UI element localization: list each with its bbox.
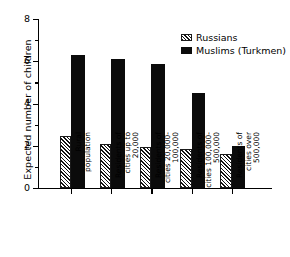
y-tick: 6 (33, 61, 38, 62)
x-category-label: Residents of cities 20,000- 100,000 (155, 132, 181, 196)
y-tick-label: 4 (24, 97, 30, 109)
y-tick-minor (35, 40, 38, 41)
x-category-label: Residents of cities up to 20,000 (115, 132, 141, 196)
x-tick (232, 189, 233, 194)
chart-legend: Russians Muslims (Turkmen) (181, 31, 286, 57)
bar-chart: Expected number of children 02468 Russia… (0, 0, 290, 257)
x-tick (192, 189, 193, 194)
y-tick: 4 (33, 104, 38, 105)
y-tick-label: 6 (24, 55, 30, 67)
legend-label: Russians (196, 32, 238, 43)
x-category-label: Residents of cities over 500,000 (236, 132, 262, 196)
y-axis-title: Expected number of children (22, 25, 33, 195)
y-tick-label: 0 (24, 182, 30, 194)
x-tick (71, 189, 72, 194)
bar-russians (140, 147, 152, 188)
legend-item-muslims: Muslims (Turkmen) (181, 44, 286, 56)
x-tick (111, 189, 112, 194)
y-tick: 0 (33, 188, 38, 189)
x-tick (151, 189, 152, 194)
y-tick-label: 8 (24, 13, 30, 25)
bar-russians (100, 144, 112, 188)
legend-label: Muslims (Turkmen) (196, 45, 286, 56)
y-tick-minor (35, 167, 38, 168)
y-tick-label: 2 (24, 139, 30, 151)
y-tick: 8 (33, 19, 38, 20)
y-tick-minor (35, 125, 38, 126)
legend-swatch-hatched-icon (181, 34, 192, 41)
y-tick: 2 (33, 146, 38, 147)
legend-swatch-solid-icon (181, 47, 192, 54)
legend-item-russians: Russians (181, 31, 286, 43)
bar-russians (220, 154, 232, 188)
bar-russians (180, 149, 192, 188)
bar-russians (60, 136, 72, 188)
x-category-label: Rural population (75, 132, 92, 196)
x-category-label: Residents of cities 100,000- 500,000 (196, 132, 222, 196)
y-tick-minor (35, 82, 38, 83)
